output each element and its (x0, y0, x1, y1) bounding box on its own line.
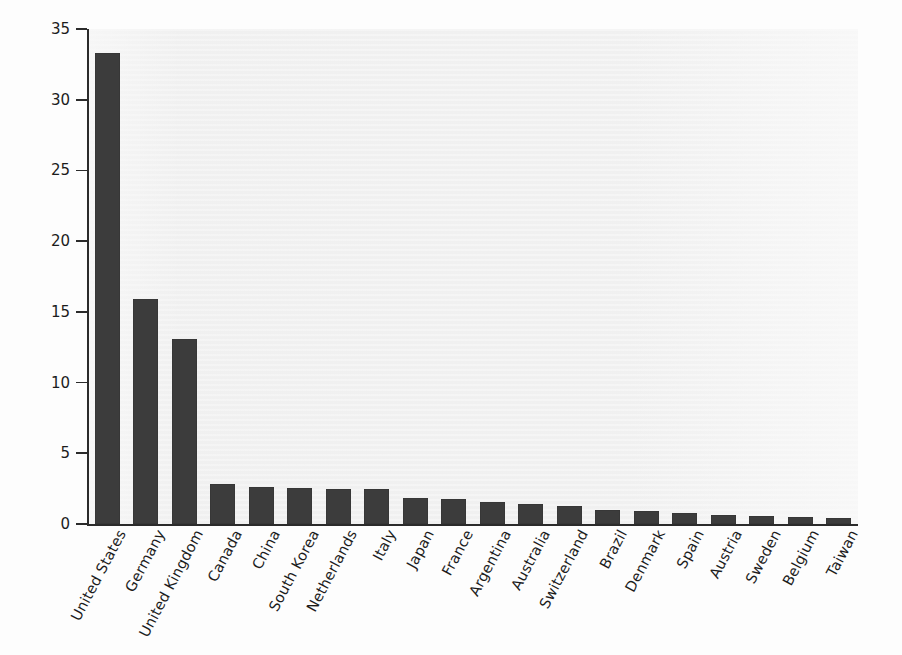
bar (480, 502, 505, 524)
y-axis-tick-label: 20 (30, 232, 70, 250)
x-axis-tick-label: Denmark (622, 527, 668, 595)
bar-chart-figure: Percentage of total registered domains 0… (0, 0, 902, 655)
bar (95, 53, 120, 524)
bar (788, 517, 813, 524)
y-axis-tick-label: 25 (30, 161, 70, 179)
y-axis-tick (76, 311, 87, 313)
x-axis-tick-label: Brazil (596, 527, 630, 571)
bar (441, 499, 466, 524)
y-axis-tick (76, 99, 87, 101)
x-axis-tick-labels: United StatesGermanyUnited KingdomCanada… (88, 527, 878, 655)
x-axis-tick-label: Italy (370, 527, 399, 563)
y-axis-tick (76, 240, 87, 242)
bar (557, 506, 582, 524)
x-axis-tick-label: United States (68, 527, 129, 624)
y-axis-tick-label: 35 (30, 20, 70, 38)
bar (403, 498, 428, 524)
bar-series (88, 29, 858, 524)
y-axis-tick (76, 28, 87, 30)
y-axis-tick-label: 30 (30, 91, 70, 109)
y-axis-tick-label: 10 (30, 374, 70, 392)
x-axis-tick-label: Spain (673, 527, 707, 571)
y-axis-tick-labels: 05101520253035 (18, 0, 70, 655)
bar (826, 518, 851, 524)
bar (287, 488, 312, 524)
y-axis-tick-label: 0 (30, 515, 70, 533)
bar (672, 513, 697, 524)
x-axis-tick-label: Sweden (742, 527, 784, 586)
bar (133, 299, 158, 524)
bar (595, 510, 620, 524)
x-axis-tick-label: China (249, 527, 283, 572)
x-axis-tick-label: France (439, 527, 476, 578)
bar (634, 511, 659, 524)
bar (749, 516, 774, 524)
bar (364, 489, 389, 524)
x-axis-tick-label: Belgium (780, 527, 823, 588)
x-axis-tick-label: Taiwan (823, 527, 861, 579)
y-axis-tick (76, 523, 87, 525)
x-axis-tick-label: Canada (204, 527, 245, 584)
bar (711, 515, 736, 524)
y-axis-tick (76, 170, 87, 172)
bar (326, 489, 351, 524)
bar (210, 484, 235, 524)
y-axis-tick-label: 5 (30, 444, 70, 462)
x-axis-tick-label: Austria (707, 527, 746, 581)
x-axis-tick-label: Japan (404, 527, 438, 571)
bar (518, 504, 543, 524)
bar (249, 487, 274, 524)
bar (172, 339, 197, 524)
y-axis-tick (76, 452, 87, 454)
y-axis-tick-label: 15 (30, 303, 70, 321)
x-axis-line (87, 524, 858, 526)
y-axis-tick (76, 382, 87, 384)
